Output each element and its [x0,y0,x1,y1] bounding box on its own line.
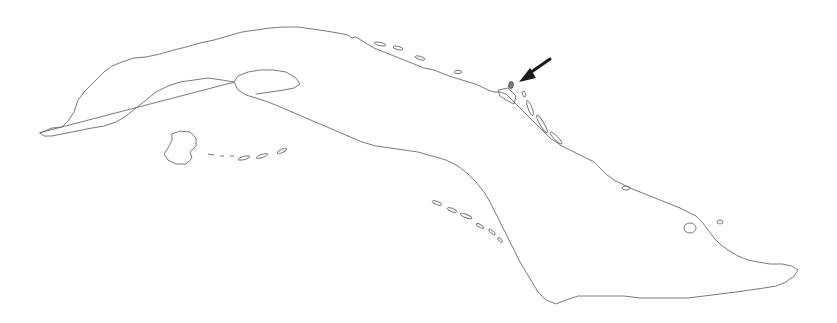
pointer-arrow-icon [519,59,550,82]
marked-cay [508,81,514,89]
cuba-map: Cuba outline [0,0,837,323]
eastern-features [622,186,723,233]
southern-cays [208,147,503,243]
isla-de-la-juventud [164,131,196,164]
cuba-main-island [40,27,798,304]
northern-cays [374,41,563,145]
